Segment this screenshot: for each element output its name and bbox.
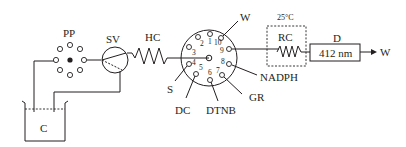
port-5-label: DC xyxy=(175,104,190,116)
container-label: C xyxy=(40,122,47,134)
arrow-right-icon xyxy=(371,49,377,55)
waste-out-label: W xyxy=(380,46,391,58)
selection-valve: SV xyxy=(102,33,128,73)
port-6-number: 6 xyxy=(208,68,212,77)
port-4-label: S xyxy=(167,83,173,95)
detector-wavelength: 412 nm xyxy=(319,47,353,59)
port-7-number: 7 xyxy=(216,66,220,75)
reaction-coil: 25°C RC xyxy=(267,13,306,66)
sv-label: SV xyxy=(106,33,120,45)
rc-label: RC xyxy=(278,31,293,43)
temperature-label: 25°C xyxy=(277,13,294,22)
port-4-number: 4 xyxy=(192,58,196,67)
detector-label: D xyxy=(333,32,341,44)
port-1-number: 1 xyxy=(208,37,212,46)
port-8-label: NADPH xyxy=(260,71,298,83)
port-7-label: GR xyxy=(249,91,265,103)
peristaltic-pump: PP xyxy=(53,27,86,78)
port-3-number: 3 xyxy=(192,48,196,57)
port-6-label: DTNB xyxy=(206,104,236,116)
port-2-number: 2 xyxy=(200,39,204,48)
port-8-number: 8 xyxy=(221,57,225,66)
port-9-number: 9 xyxy=(220,46,224,55)
flow-injection-diagram: C PP SV HC xyxy=(0,0,406,147)
tube-container-to-pump xyxy=(34,61,54,112)
port-10-number: 10 xyxy=(214,38,222,47)
hc-label: HC xyxy=(145,31,160,43)
container-c: C xyxy=(22,101,68,141)
port-5-number: 5 xyxy=(199,63,203,72)
pump-label: PP xyxy=(63,27,75,39)
pump-rotor-icon xyxy=(67,57,72,62)
detector: D 412 nm xyxy=(310,32,360,61)
port-10-label: W xyxy=(240,11,251,23)
tube-valve-to-container xyxy=(54,71,120,112)
